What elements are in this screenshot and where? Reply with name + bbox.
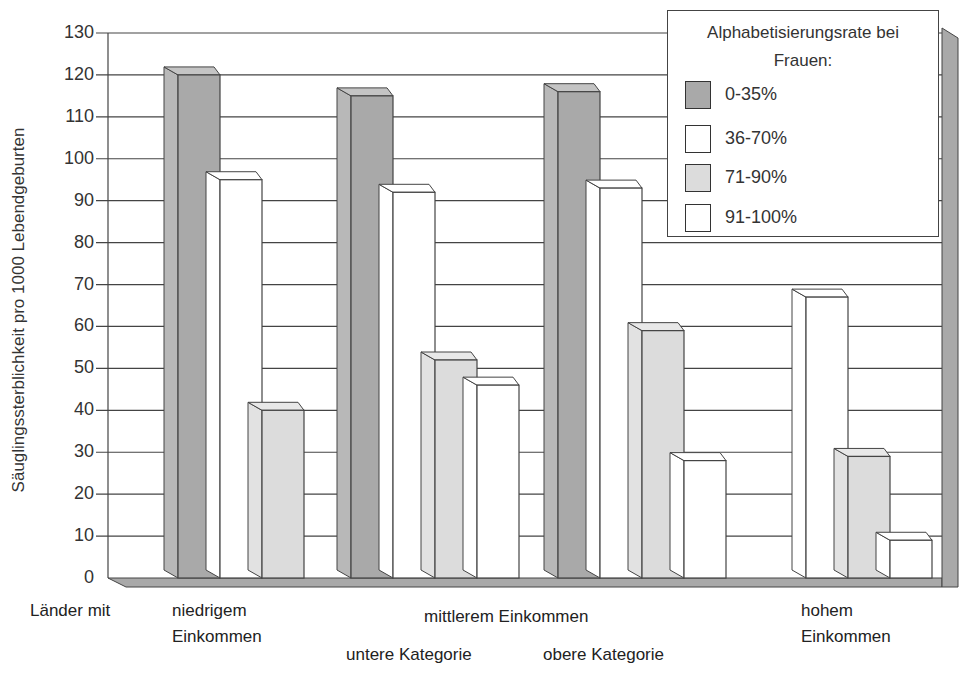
y-tick-label: 100: [48, 148, 94, 169]
x-label-prefix: Länder mit: [30, 598, 110, 624]
x-label-low: niedrigem Einkommen: [172, 598, 262, 650]
legend-title: Alphabetisierungsrate bei Frauen:: [668, 19, 938, 75]
legend: Alphabetisierungsrate bei Frauen: 0-35% …: [667, 10, 939, 237]
y-tick-label: 120: [48, 64, 94, 85]
y-tick-label: 10: [48, 525, 94, 546]
legend-label: 36-70%: [725, 128, 787, 149]
x-label-low-line1: niedrigem: [172, 598, 262, 624]
y-tick-label: 130: [48, 22, 94, 43]
x-label-middle: mittlerem Einkommen: [424, 604, 588, 630]
y-axis-title: Säuglingssterblichkeit pro 1000 Lebendge…: [9, 128, 29, 493]
legend-swatch: [685, 164, 711, 192]
y-tick-label: 0: [48, 567, 94, 588]
legend-title-line2: Frauen:: [668, 47, 938, 75]
bar: [463, 377, 519, 578]
legend-label: 0-35%: [725, 84, 777, 105]
x-label-high-line1: hohem: [801, 598, 891, 624]
y-tick-label: 40: [48, 399, 94, 420]
legend-label: 71-90%: [725, 167, 787, 188]
y-tick-label: 80: [48, 232, 94, 253]
y-tick-label: 20: [48, 483, 94, 504]
y-tick-label: 70: [48, 274, 94, 295]
legend-swatch: [685, 81, 711, 109]
x-label-high-line2: Einkommen: [801, 624, 891, 650]
x-label-upper-category: obere Kategorie: [543, 642, 664, 668]
x-label-high: hohem Einkommen: [801, 598, 891, 650]
y-tick-label: 60: [48, 315, 94, 336]
legend-swatch: [685, 204, 711, 232]
y-axis-label: Säuglingssterblichkeit pro 1000 Lebendge…: [4, 40, 34, 580]
legend-label: 91-100%: [725, 207, 797, 228]
y-tick-label: 90: [48, 190, 94, 211]
bar: [876, 532, 932, 578]
legend-swatch: [685, 125, 711, 153]
x-label-low-line2: Einkommen: [172, 624, 262, 650]
x-label-lower-category: untere Kategorie: [346, 642, 472, 668]
bar: [670, 453, 726, 578]
legend-title-line1: Alphabetisierungsrate bei: [668, 19, 938, 47]
y-tick-label: 50: [48, 357, 94, 378]
bar: [248, 402, 304, 578]
y-tick-label: 30: [48, 441, 94, 462]
y-tick-label: 110: [48, 106, 94, 127]
